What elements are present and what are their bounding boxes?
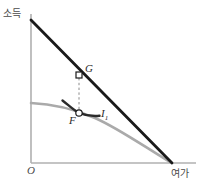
x-axis-label: 여가 [171,169,189,179]
y-axis-label: 소득 [3,9,21,19]
point-f-label: F [69,115,76,126]
indifference-curve-label-subscript: 1 [105,114,109,122]
point-g-label: G [85,63,93,74]
point-g-marker [76,72,82,78]
diagram-canvas: 소득 여가 O G F I1 [0,0,209,194]
budget-line [31,20,172,163]
point-f-marker [76,110,82,116]
indifference-curve-label: I1 [101,108,108,122]
origin-label: O [27,165,35,176]
